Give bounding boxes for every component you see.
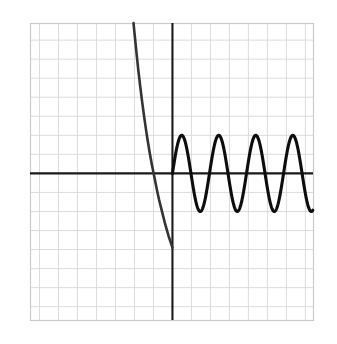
- chart-figure: [0, 0, 337, 344]
- graph-canvas: [0, 0, 337, 344]
